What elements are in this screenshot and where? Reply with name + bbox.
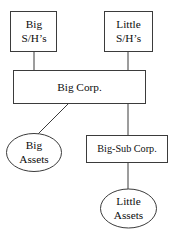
little-shareholders-label-line1: Little bbox=[116, 18, 140, 30]
big-sub-corp-label: Big-Sub Corp. bbox=[97, 143, 156, 154]
big-shareholders-label-line1: Big bbox=[26, 18, 43, 30]
node-big-shareholders[interactable]: Big S/H’s bbox=[11, 12, 57, 52]
little-assets-label-line1: Little bbox=[116, 195, 140, 207]
big-assets-label-line2: Assets bbox=[19, 153, 49, 165]
edge-big-corp-to-big-assets bbox=[37, 104, 68, 135]
big-shareholders-label-line2: S/H’s bbox=[21, 32, 46, 44]
node-big-assets[interactable]: Big Assets bbox=[7, 134, 62, 172]
big-assets-label-line1: Big bbox=[26, 139, 43, 151]
node-little-assets[interactable]: Little Assets bbox=[101, 189, 157, 228]
node-little-shareholders[interactable]: Little S/H’s bbox=[105, 12, 153, 52]
little-shareholders-label-line2: S/H’s bbox=[116, 32, 141, 44]
node-big-corp[interactable]: Big Corp. bbox=[14, 71, 146, 104]
diagram-canvas: Big S/H’s Little S/H’s Big Corp. Big Ass… bbox=[0, 0, 176, 235]
big-corp-label: Big Corp. bbox=[57, 81, 102, 93]
node-big-sub-corp[interactable]: Big-Sub Corp. bbox=[87, 136, 168, 163]
diagram-svg: Big S/H’s Little S/H’s Big Corp. Big Ass… bbox=[0, 0, 176, 235]
little-assets-label-line2: Assets bbox=[114, 209, 144, 221]
